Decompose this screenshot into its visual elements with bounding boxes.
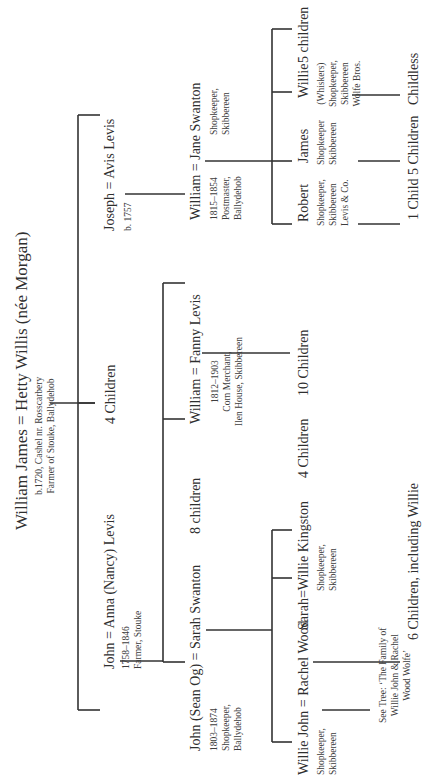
willie-nickname: (Whiskers) <box>316 60 328 107</box>
root-couple: William James = Hetty Willis (née Morgan… <box>12 232 32 530</box>
james-details: Shopkeeper Skibbereen <box>316 120 340 165</box>
william-fanny-dates: 1812–1903 <box>210 337 222 426</box>
six-children-note: 6 Children, including Willie <box>406 483 422 640</box>
see-tree-note[interactable]: See Tree: ‘The Family of Willie John & R… <box>378 627 414 723</box>
willie-children-note: Childless <box>406 53 422 105</box>
john-sean-og-details: 1803–1874 Shopkeeper, Ballydehob <box>209 704 245 751</box>
sarah-willie-kingston-couple: Sarah=Willie Kingston <box>296 501 312 630</box>
william-jane-place: Ballydehob <box>233 176 245 220</box>
robert-children-note: 1 Child <box>406 178 422 220</box>
william-fanny-place: Ilen House, Skibbereen <box>234 337 246 426</box>
four-children-note: 4 Children <box>296 419 312 479</box>
jane-place: Skibbereen <box>221 88 233 135</box>
root-birth: b.1720, Cashel nr. Rosscarbery <box>34 377 46 495</box>
eight-children-note: 8 children <box>188 478 204 534</box>
robert-business: Levis & Co. <box>340 179 352 226</box>
william-jane-details-right: Shopkeeper, Skibbereen <box>209 88 233 135</box>
joseph-birth: b. 1757 <box>123 203 135 232</box>
five-children-note: 5 children <box>296 7 312 63</box>
willie-name: Willie <box>296 64 312 98</box>
joseph-avis-couple: Joseph = Avis Levis <box>102 119 118 231</box>
willie-place: Skibbereen <box>340 60 352 107</box>
william-jane-details-left: 1815–1854 Postmaster, Ballydehob <box>209 176 245 220</box>
see-tree-line-1: See Tree: ‘The Family of <box>378 627 390 723</box>
willie-john-rachel-couple: Willie John = Rachel Wood <box>296 621 312 775</box>
john-anna-details: 1758–1846 Farmer, Stouke <box>121 611 145 669</box>
john-sean-og-place: Ballydehob <box>233 704 245 751</box>
willie-details: (Whiskers) Shopkeeper, Skibbereen Wolfe … <box>316 60 364 107</box>
root-details: b.1720, Cashel nr. Rosscarbery Farmer of… <box>34 377 58 495</box>
john-sean-og-occupation: Shopkeeper, <box>221 704 233 751</box>
willie-kingston-details: Shopkeeper, Skibbereen <box>316 544 340 591</box>
william-fanny-couple: William = Fanny Levis <box>188 294 204 424</box>
root-occupation: Farmer of Stouke, Ballydehob <box>46 377 58 495</box>
robert-details: Shopkeeper, Skibbereen Levis & Co. <box>316 179 352 226</box>
see-tree-line-3: Wood Wolfe’ <box>402 627 414 723</box>
root-children-note: 4 Children <box>103 365 119 425</box>
john-sean-og-couple: John (Sean Og) = Sarah Swanton <box>188 565 204 751</box>
robert-name: Robert <box>296 184 312 222</box>
james-children-note: 5 Children <box>406 116 422 176</box>
willie-john-place: Skibbereen <box>328 728 340 775</box>
john-dates: 1758–1846 <box>121 611 133 669</box>
willie-kingston-occupation: Shopkeeper, <box>316 544 328 591</box>
john-sean-og-dates: 1803–1874 <box>209 704 221 751</box>
james-name: James <box>296 129 312 163</box>
willie-john-occupation: Shopkeeper, <box>316 728 328 775</box>
john-anna-couple: John = Anna (Nancy) Levis <box>102 514 118 669</box>
william-jane-occupation: Postmaster, <box>221 176 233 220</box>
robert-place: Skibbereen <box>328 179 340 226</box>
william-fanny-details: 1812–1903 Corn Merchant, Ilen House, Ski… <box>210 337 246 426</box>
james-occupation: Shopkeeper <box>316 120 328 165</box>
family-tree-diagram: William James = Hetty Willis (née Morgan… <box>0 0 435 781</box>
willie-business: Wolfe Bros. <box>352 60 364 107</box>
willie-kingston-place: Skibbereen <box>328 544 340 591</box>
james-place: Skibbereen <box>328 120 340 165</box>
see-tree-line-2: Willie John & Rachel <box>390 627 402 723</box>
ten-children-note: 10 Children <box>296 330 312 397</box>
william-fanny-occupation: Corn Merchant, <box>222 337 234 426</box>
willie-occupation: Shopkeeper, <box>328 60 340 107</box>
john-occupation: Farmer, Stouke <box>133 611 145 669</box>
william-jane-couple: William = Jane Swanton <box>188 82 204 220</box>
robert-occupation: Shopkeeper, <box>316 179 328 226</box>
willie-john-details: Shopkeeper, Skibbereen <box>316 728 340 775</box>
jane-occupation: Shopkeeper, <box>209 88 221 135</box>
william-jane-dates: 1815–1854 <box>209 176 221 220</box>
